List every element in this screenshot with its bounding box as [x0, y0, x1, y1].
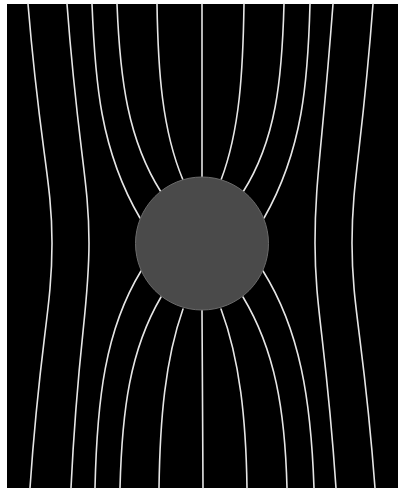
sphere [136, 177, 269, 310]
field-diagram [0, 0, 401, 492]
field-diagram-svg [0, 0, 401, 492]
field-line-center-lower [202, 310, 203, 488]
